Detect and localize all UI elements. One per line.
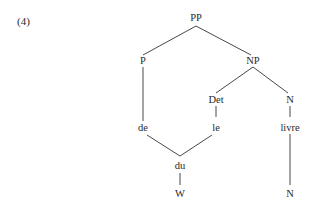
edge-le-du bbox=[180, 135, 212, 156]
edge-np-n bbox=[253, 67, 288, 93]
node-p: P bbox=[140, 55, 146, 67]
edge-pp-np bbox=[196, 26, 251, 55]
node-det: Det bbox=[208, 94, 223, 106]
node-n-upper: N bbox=[286, 94, 294, 106]
edge-pp-p bbox=[143, 26, 196, 55]
node-le: le bbox=[212, 122, 220, 134]
node-livre: livre bbox=[280, 122, 299, 134]
node-n-lower: N bbox=[286, 188, 294, 200]
node-du: du bbox=[175, 160, 186, 172]
node-np: NP bbox=[246, 55, 259, 67]
node-de: de bbox=[138, 122, 148, 134]
node-w: W bbox=[175, 188, 185, 200]
tree-edges bbox=[0, 0, 315, 204]
edge-de-du bbox=[147, 135, 180, 156]
edge-np-det bbox=[216, 67, 253, 93]
node-pp: PP bbox=[190, 12, 202, 24]
